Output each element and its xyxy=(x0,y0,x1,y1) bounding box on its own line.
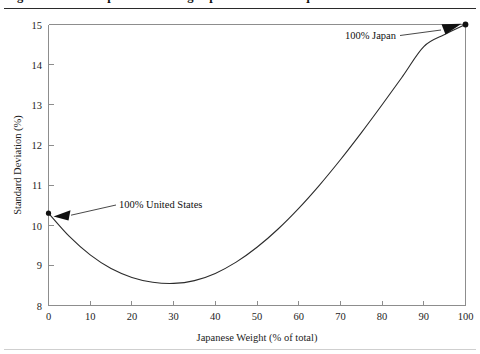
y-tick-label-9: 9 xyxy=(37,260,42,271)
annotation-leader-line-japan xyxy=(400,30,441,36)
annotation-label-united-states: 100% United States xyxy=(119,199,202,210)
x-tick-label-100: 100 xyxy=(458,311,474,322)
x-tick-label-40: 40 xyxy=(210,311,221,322)
portfolio-risk-curve xyxy=(49,25,466,284)
y-axis-title: Standard Deviation (%) xyxy=(12,115,24,215)
chart-figure: 15 14 13 12 11 10 9 8 0 10 20 xyxy=(0,9,480,349)
x-tick-label-60: 60 xyxy=(293,311,304,322)
x-tick-label-70: 70 xyxy=(335,311,346,322)
x-tick-label-80: 80 xyxy=(377,311,388,322)
x-axis-tick-labels: 0 10 20 30 40 50 60 70 80 90 100 xyxy=(46,311,474,322)
annotation-japan: 100% Japan xyxy=(345,24,462,41)
x-tick-label-90: 90 xyxy=(419,311,430,322)
x-axis-ticks xyxy=(49,301,466,306)
y-tick-label-15: 15 xyxy=(32,20,43,31)
standard-deviation-vs-japanese-weight-chart: 15 14 13 12 11 10 9 8 0 10 20 xyxy=(0,9,480,349)
annotation-arrowhead-united-states xyxy=(54,210,71,220)
figure-title: Figure 1. Risk of a portfolio mixing Jap… xyxy=(6,0,338,4)
annotation-arrowhead-japan xyxy=(442,24,462,35)
y-axis-ticks xyxy=(49,25,54,306)
x-tick-label-10: 10 xyxy=(85,311,96,322)
y-tick-label-11: 11 xyxy=(32,180,42,191)
annotation-leader-line-united-states xyxy=(71,205,116,215)
y-tick-label-12: 12 xyxy=(32,140,43,151)
plot-axes xyxy=(49,25,466,306)
footer-horizontal-rule xyxy=(4,349,476,350)
x-tick-label-50: 50 xyxy=(252,311,263,322)
endpoint-dot-japan xyxy=(463,22,469,28)
y-tick-label-8: 8 xyxy=(37,301,42,312)
y-axis-tick-labels: 15 14 13 12 11 10 9 8 xyxy=(32,20,43,312)
x-tick-label-20: 20 xyxy=(127,311,138,322)
annotation-united-states: 100% United States xyxy=(54,199,203,221)
annotation-label-japan: 100% Japan xyxy=(345,30,397,41)
x-tick-label-0: 0 xyxy=(46,311,51,322)
y-tick-label-13: 13 xyxy=(32,100,43,111)
x-tick-label-30: 30 xyxy=(168,311,179,322)
endpoint-dot-united-states xyxy=(46,211,51,216)
y-tick-label-10: 10 xyxy=(32,221,43,232)
y-tick-label-14: 14 xyxy=(32,60,43,71)
x-axis-title: Japanese Weight (% of total) xyxy=(197,332,318,344)
